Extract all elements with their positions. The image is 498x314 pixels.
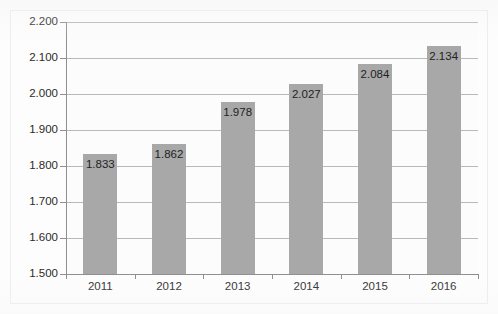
y-axis-labels: 1.5001.6001.7001.8001.9002.0002.1002.200: [0, 0, 58, 314]
y-axis-tick: [60, 238, 66, 239]
x-axis-tick: [66, 274, 67, 279]
gridline: [66, 22, 478, 23]
y-axis-tick: [60, 94, 66, 95]
x-axis-tick-label: 2016: [414, 281, 474, 293]
y-axis-tick: [60, 166, 66, 167]
y-axis-tick: [60, 22, 66, 23]
gridline: [66, 94, 478, 95]
x-axis-tick-label: 2013: [208, 281, 268, 293]
y-axis-tick: [60, 58, 66, 59]
bar-value-label: 2.134: [414, 51, 474, 63]
gridline: [66, 130, 478, 131]
gridline: [66, 238, 478, 239]
x-axis-tick: [135, 274, 136, 279]
bar-value-label: 1.862: [139, 149, 199, 161]
y-axis-tick-label: 2.100: [6, 52, 58, 64]
bar-value-label: 2.027: [276, 89, 336, 101]
y-axis-tick: [60, 202, 66, 203]
bar: [152, 144, 186, 274]
x-axis-tick: [341, 274, 342, 279]
bar: [427, 46, 461, 274]
y-axis-tick-label: 1.700: [6, 196, 58, 208]
y-axis-tick: [60, 130, 66, 131]
x-axis-tick-label: 2015: [345, 281, 405, 293]
bar: [221, 102, 255, 274]
y-axis-tick-label: 1.500: [6, 268, 58, 280]
bar-value-label: 2.084: [345, 69, 405, 81]
bar-chart: 1.5001.6001.7001.8001.9002.0002.1002.200…: [0, 0, 498, 314]
y-axis-tick-label: 2.000: [6, 88, 58, 100]
y-axis-tick-label: 1.600: [6, 232, 58, 244]
bar: [289, 84, 323, 274]
x-axis-tick-label: 2014: [276, 281, 336, 293]
x-axis-tick: [478, 274, 479, 279]
x-axis-tick-label: 2011: [70, 281, 130, 293]
x-axis-tick-label: 2012: [139, 281, 199, 293]
y-axis-tick-label: 1.900: [6, 124, 58, 136]
gridline: [66, 202, 478, 203]
x-axis-tick: [272, 274, 273, 279]
x-axis-tick: [203, 274, 204, 279]
y-axis-line: [66, 22, 67, 275]
bar-value-label: 1.978: [208, 107, 268, 119]
x-axis-tick: [409, 274, 410, 279]
bar-value-label: 1.833: [70, 159, 130, 171]
bar: [358, 64, 392, 274]
y-axis-tick-label: 2.200: [6, 16, 58, 28]
bar: [83, 154, 117, 274]
y-axis-tick-label: 1.800: [6, 160, 58, 172]
